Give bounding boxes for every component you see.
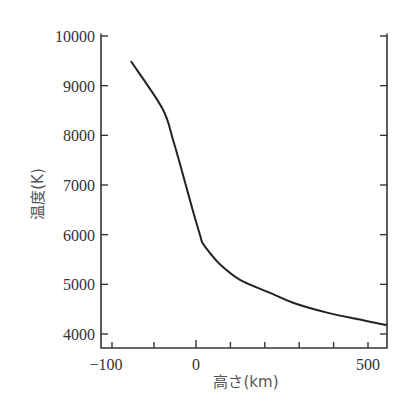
x-tick-label: 0 xyxy=(192,356,200,373)
y-tick-label: 5000 xyxy=(63,276,95,293)
x-tick-label: −100 xyxy=(89,356,122,373)
temperature-curve xyxy=(131,62,386,325)
y-axis-title: 温度(K) xyxy=(29,168,47,220)
y-tick-label: 8000 xyxy=(63,127,95,144)
y-tick-label: 7000 xyxy=(63,177,95,194)
x-axis-tick-labels: −1000500 xyxy=(89,356,380,373)
y-tick-label: 6000 xyxy=(63,227,95,244)
x-axis-title: 高さ(km) xyxy=(213,373,278,391)
x-tick-label: 500 xyxy=(356,356,380,373)
y-tick-label: 10000 xyxy=(55,28,95,45)
x-axis-ticks xyxy=(112,340,368,348)
y-tick-label: 4000 xyxy=(63,326,95,343)
y-axis-tick-labels: 40005000600070008000900010000 xyxy=(55,28,95,343)
temperature-height-chart: 40005000600070008000900010000 −1000500 高… xyxy=(0,0,413,407)
y-tick-label: 9000 xyxy=(63,78,95,95)
